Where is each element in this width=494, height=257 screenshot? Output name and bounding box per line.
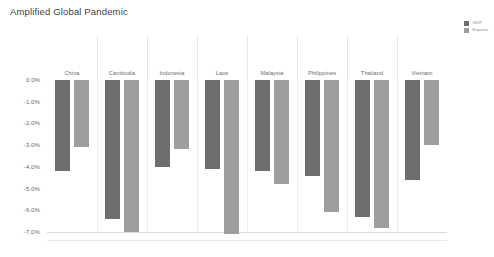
bar-gdp-vietnam[interactable] <box>405 80 420 180</box>
legend-swatch-icon <box>464 21 469 26</box>
bar-gdp-philippines[interactable] <box>305 80 320 176</box>
category-header-malaysia: Malaysia <box>247 36 297 80</box>
bar-gdp-thailand[interactable] <box>355 80 370 217</box>
category-header-thailand: Thailand <box>347 36 397 80</box>
chart-title: Amplified Global Pandemic <box>10 6 128 17</box>
plot-area: ChinaCambodiaIndonesiaLaosMalaysiaPhilip… <box>47 36 447 232</box>
legend-item-label: GDP <box>472 21 482 25</box>
x-axis-category-label: Cambodia <box>109 70 135 76</box>
x-axis-category-label: Vietnam <box>411 70 432 76</box>
bar-group-laos <box>197 80 247 232</box>
bar-exports-china[interactable] <box>74 80 89 147</box>
bar-exports-indonesia[interactable] <box>174 80 189 149</box>
y-axis: 0.0%-1.0%-2.0%-3.0%-4.0%-5.0%-6.0%-7.0% <box>0 80 44 232</box>
category-header-cambodia: Cambodia <box>97 36 147 80</box>
chart-card: Amplified Global Pandemic GDPExports 0.0… <box>0 0 494 257</box>
y-axis-tick-label: -6.0% <box>24 207 40 213</box>
bar-gdp-malaysia[interactable] <box>255 80 270 171</box>
bar-exports-philippines[interactable] <box>324 80 339 212</box>
legend-item[interactable]: GDP <box>464 21 488 26</box>
bar-gdp-china[interactable] <box>55 80 70 171</box>
legend-swatch-icon <box>464 28 469 33</box>
y-axis-tick-label: -4.0% <box>24 164 40 170</box>
bar-group-vietnam <box>397 80 447 232</box>
bar-group-indonesia <box>147 80 197 232</box>
bar-exports-laos[interactable] <box>224 80 239 234</box>
bar-gdp-laos[interactable] <box>205 80 220 169</box>
bar-gdp-indonesia[interactable] <box>155 80 170 167</box>
x-axis-category-label: Thailand <box>361 70 383 76</box>
x-axis-category-label: Malaysia <box>261 70 284 76</box>
x-axis-category-label: China <box>64 70 79 76</box>
legend-item-label: Exports <box>472 28 488 32</box>
bar-exports-vietnam[interactable] <box>424 80 439 145</box>
bars-region <box>47 80 447 233</box>
y-axis-tick-label: -2.0% <box>24 120 40 126</box>
y-axis-tick-label: -7.0% <box>24 229 40 235</box>
x-axis-category-label: Indonesia <box>159 70 184 76</box>
bar-exports-thailand[interactable] <box>374 80 389 228</box>
bottom-divider <box>47 240 447 241</box>
category-header-laos: Laos <box>197 36 247 80</box>
bar-group-thailand <box>347 80 397 232</box>
x-axis-category-label: Laos <box>216 70 229 76</box>
chart-legend: GDPExports <box>464 21 488 33</box>
bar-group-china <box>47 80 97 232</box>
y-axis-tick-label: 0.0% <box>26 77 40 83</box>
x-axis-category-label: Philippines <box>308 70 336 76</box>
category-header-philippines: Philippines <box>297 36 347 80</box>
legend-item[interactable]: Exports <box>464 28 488 33</box>
bar-group-malaysia <box>247 80 297 232</box>
category-header-band: ChinaCambodiaIndonesiaLaosMalaysiaPhilip… <box>47 36 447 80</box>
bar-gdp-cambodia[interactable] <box>105 80 120 219</box>
y-axis-tick-label: -1.0% <box>24 99 40 105</box>
bar-exports-malaysia[interactable] <box>274 80 289 184</box>
bar-exports-cambodia[interactable] <box>124 80 139 232</box>
y-axis-tick-label: -3.0% <box>24 142 40 148</box>
category-header-vietnam: Vietnam <box>397 36 447 80</box>
category-header-china: China <box>47 36 97 80</box>
bar-group-philippines <box>297 80 347 232</box>
category-header-indonesia: Indonesia <box>147 36 197 80</box>
bar-group-cambodia <box>97 80 147 232</box>
y-axis-tick-label: -5.0% <box>24 186 40 192</box>
